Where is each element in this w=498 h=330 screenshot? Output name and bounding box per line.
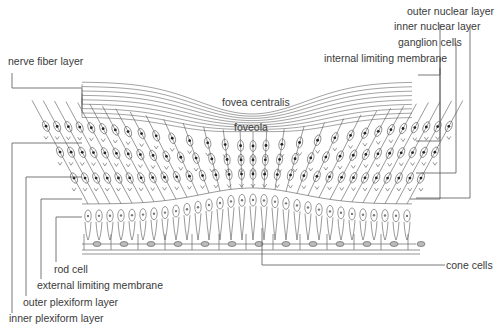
label-inner-nuclear-layer: inner nuclear layer	[394, 20, 480, 32]
label-ganglion-cells: ganglion cells	[398, 36, 462, 48]
label-internal-limiting-membrane: internal limiting membrane	[324, 52, 447, 64]
label-outer-nuclear-layer: outer nuclear layer	[407, 5, 494, 17]
label-external-limiting-membrane: external limiting membrane	[37, 279, 163, 291]
leader-nerve-fiber-layer	[12, 73, 82, 88]
label-foveola: foveola	[234, 121, 268, 133]
label-fovea-centralis: fovea centralis	[222, 96, 290, 108]
label-cone-cells: cone cells	[446, 259, 493, 271]
leader-rod-cell	[56, 217, 82, 262]
label-rod-cell: rod cell	[54, 263, 88, 275]
leader-internal-limiting-membrane	[418, 68, 440, 75]
label-inner-plexiform-layer: inner plexiform layer	[9, 312, 104, 324]
label-nerve-fiber-layer: nerve fiber layer	[8, 55, 83, 67]
label-outer-plexiform-layer: outer plexiform layer	[23, 296, 118, 308]
